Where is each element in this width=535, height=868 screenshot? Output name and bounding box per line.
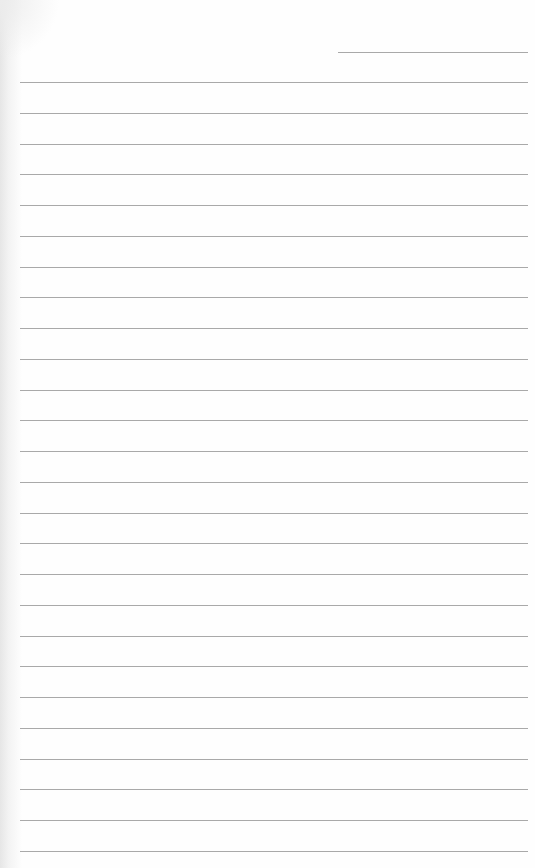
ruled-line bbox=[20, 636, 528, 637]
ruled-line bbox=[20, 328, 528, 329]
ruled-line bbox=[20, 666, 528, 667]
ruled-line bbox=[20, 390, 528, 391]
ruled-line bbox=[20, 605, 528, 606]
page-corner-shadow bbox=[0, 0, 60, 60]
ruled-line bbox=[20, 789, 528, 790]
ruled-line bbox=[20, 759, 528, 760]
page-edge-shadow bbox=[0, 0, 22, 868]
ruled-line bbox=[20, 113, 528, 114]
ruled-line bbox=[20, 205, 528, 206]
ruled-line bbox=[20, 851, 528, 852]
ruled-line bbox=[20, 820, 528, 821]
ruled-line bbox=[20, 420, 528, 421]
ruled-line bbox=[20, 543, 528, 544]
lined-paper-page bbox=[0, 0, 535, 868]
ruled-line bbox=[20, 359, 528, 360]
ruled-line bbox=[20, 513, 528, 514]
ruled-line bbox=[20, 267, 528, 268]
ruled-line bbox=[20, 82, 528, 83]
ruled-line bbox=[20, 451, 528, 452]
ruled-line bbox=[20, 144, 528, 145]
ruled-line bbox=[20, 297, 528, 298]
ruled-line bbox=[20, 697, 528, 698]
ruled-line bbox=[20, 236, 528, 237]
ruled-line bbox=[20, 482, 528, 483]
ruled-line bbox=[20, 574, 528, 575]
ruled-line bbox=[20, 728, 528, 729]
ruled-line bbox=[20, 174, 528, 175]
header-rule-line bbox=[338, 52, 528, 53]
